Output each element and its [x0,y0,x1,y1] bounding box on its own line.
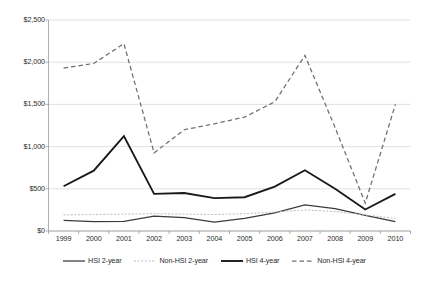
legend-item-0[interactable]: HSI 2-year [63,257,121,265]
legend-label: HSI 2-year [88,257,121,265]
line-chart: $2,500$2,000$1,500$1,000$500$0 199920002… [0,0,429,281]
gridlines [49,20,411,231]
legend-item-3[interactable]: Non-HSI 4-year [292,257,366,265]
solid-thin-line-icon [63,257,85,265]
y-axis-label: $2,000 [0,58,45,66]
axis-lines [46,20,411,231]
y-axis-label-text: $1,000 [1,143,45,151]
chart-legend: HSI 2-yearNon-HSI 2-yearHSI 4-yearNon-HS… [0,253,429,269]
y-axis-label-text: $500 [1,185,45,193]
y-axis-label: $1,000 [0,143,45,151]
y-axis-label: $500 [0,185,45,193]
y-axis-label: $0 [0,227,45,235]
series-layer [64,44,396,223]
y-axis-label: $1,500 [0,100,45,108]
legend-item-1[interactable]: Non-HSI 2-year [134,257,208,265]
series-line-2 [64,136,396,209]
legend-label: Non-HSI 4-year [317,257,366,265]
x-axis-label: 2010 [377,234,413,243]
legend-item-2[interactable]: HSI 4-year [221,257,279,265]
y-axis-label-text: $1,500 [1,100,45,108]
y-axis-label-text: $0 [1,227,45,235]
dotted-light-line-icon [134,257,156,265]
y-axis-label-text: $2,000 [1,58,45,66]
legend-label: HSI 4-year [246,257,279,265]
series-line-0 [64,205,396,222]
solid-thick-line-icon [221,257,243,265]
legend-label: Non-HSI 2-year [159,257,208,265]
y-axis-label: $2,500 [0,16,45,24]
series-line-3 [64,44,396,204]
y-axis-label-text: $2,500 [1,16,45,24]
dashed-line-icon [292,257,314,265]
